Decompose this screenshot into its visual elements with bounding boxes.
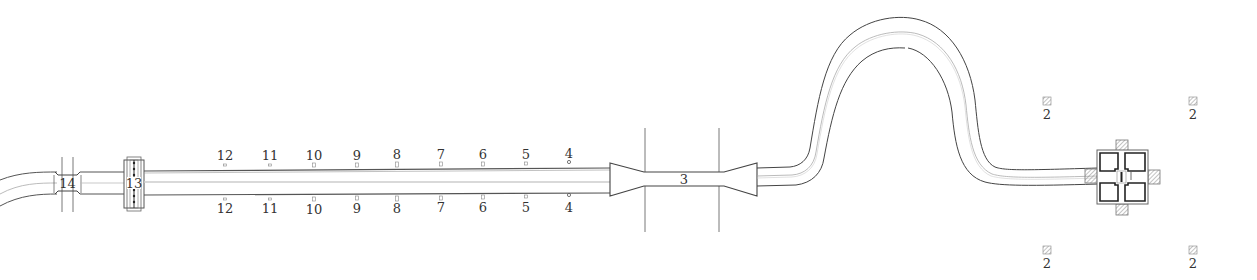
marker-4-top: 4 [565,146,573,164]
svg-text:11: 11 [262,201,279,216]
corner-marker-nw: 2 [1043,97,1051,122]
svg-text:4: 4 [565,200,573,215]
svg-text:5: 5 [522,200,530,215]
svg-text:5: 5 [522,147,530,162]
svg-text:9: 9 [353,201,361,216]
marker-9-top: 9 [353,148,361,167]
svg-text:2: 2 [1189,256,1197,271]
left-entry-road [0,172,57,206]
marker-10-top: 10 [306,148,323,167]
svg-text:2: 2 [1189,107,1197,122]
gate-3-label: 3 [680,172,688,187]
svg-text:11: 11 [262,148,279,163]
gate-13-label: 13 [126,176,143,191]
marker-11-bottom: 11 [262,198,279,216]
main-spirit-way [144,168,611,195]
marker-7-top: 7 [437,147,445,166]
marker-5-top: 5 [522,147,530,165]
svg-text:2: 2 [1043,256,1051,271]
markers-bottom: 12 11 10 9 8 7 6 5 4 [217,193,573,217]
north-porch [1116,140,1128,151]
marker-9-bottom: 9 [353,196,361,216]
west-porch [1085,169,1098,183]
svg-text:2: 2 [1043,107,1051,122]
tomb-complex [1085,140,1160,215]
corner-marker-sw: 2 [1043,246,1051,271]
marker-5-bottom: 5 [522,195,530,215]
marker-6-top: 6 [479,147,487,166]
marker-12-top: 12 [217,148,234,166]
marker-8-top: 8 [393,147,401,167]
svg-text:6: 6 [479,200,487,215]
gate-14: 14 [54,157,81,212]
corner-marker-se: 2 [1189,246,1197,271]
svg-text:6: 6 [479,147,487,162]
marker-8-bottom: 8 [393,196,401,216]
marker-6-bottom: 6 [479,195,487,215]
svg-text:8: 8 [393,147,401,162]
svg-text:4: 4 [565,146,573,161]
svg-text:12: 12 [217,201,234,216]
svg-text:7: 7 [437,200,445,215]
svg-text:9: 9 [353,148,361,163]
corner-marker-ne: 2 [1189,97,1197,122]
south-porch [1116,204,1128,215]
markers-top: 12 11 10 9 8 7 6 5 4 [217,146,573,167]
svg-text:10: 10 [306,148,323,163]
gate-13: 13 [124,157,144,211]
site-plan-diagram: 14 13 12 11 10 9 8 7 6 5 4 [0,0,1257,280]
svg-text:8: 8 [393,201,401,216]
svg-text:10: 10 [306,202,323,217]
marker-12-bottom: 12 [217,198,234,216]
road-segment-14-13 [80,172,124,194]
marker-11-top: 11 [262,148,279,166]
east-porch [1148,170,1160,184]
gate-14-label: 14 [59,176,76,191]
svg-text:7: 7 [437,147,445,162]
svg-text:12: 12 [217,148,234,163]
gate-3: 3 [610,128,757,232]
marker-4-bottom: 4 [565,193,573,215]
marker-7-bottom: 7 [437,196,445,215]
marker-10-bottom: 10 [306,197,323,217]
